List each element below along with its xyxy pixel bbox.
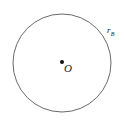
radius-subscript: B bbox=[111, 31, 115, 37]
center-point-label: O bbox=[64, 63, 72, 74]
radius-label: rB bbox=[107, 26, 114, 35]
diagram-canvas bbox=[0, 0, 125, 131]
circle-diagram: O rB bbox=[0, 0, 125, 131]
radius-symbol: r bbox=[107, 25, 111, 35]
